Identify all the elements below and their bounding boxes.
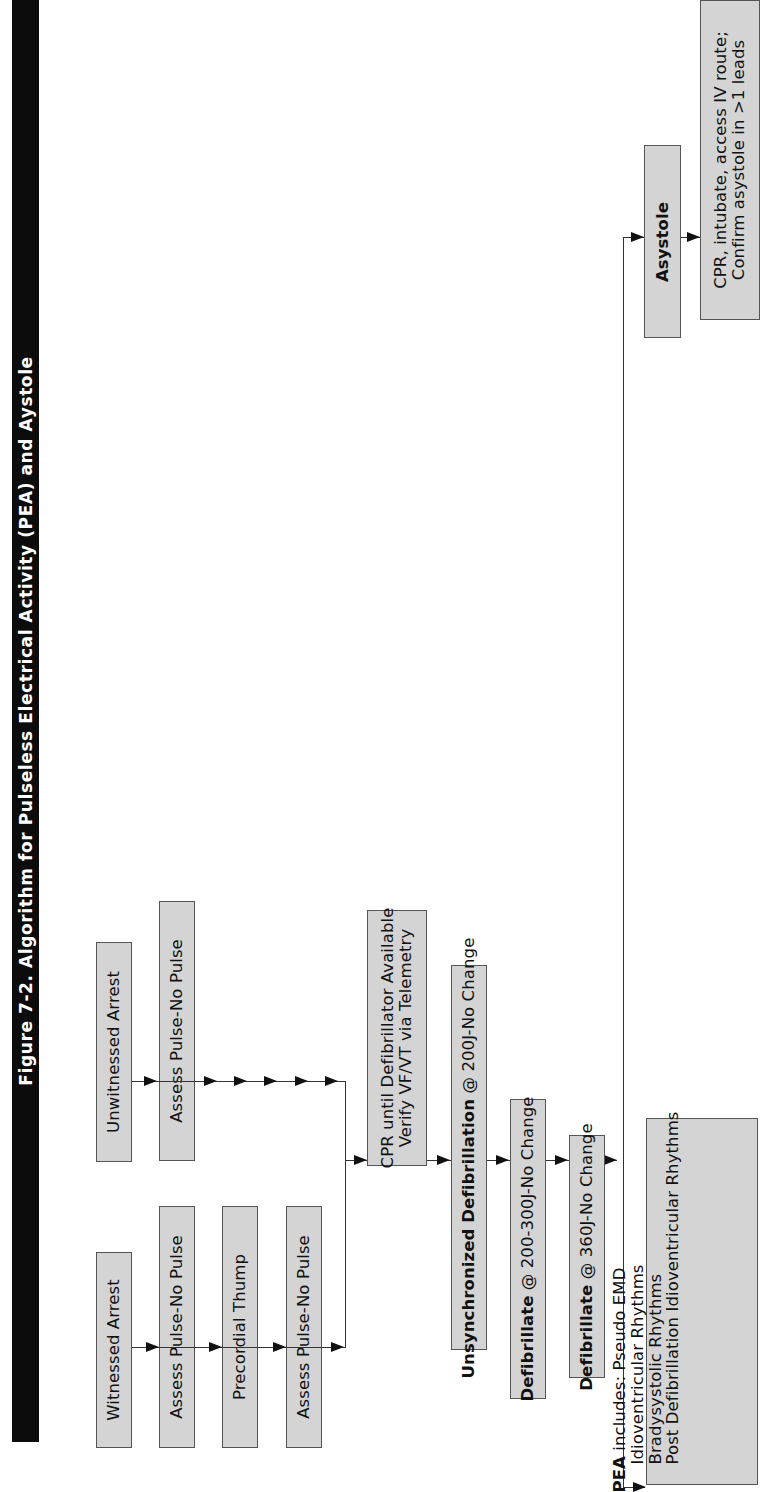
- cpr-verify-box: CPR until Defibrillator Available Verify…: [367, 910, 427, 1166]
- assess-pulse-label-2: Assess Pulse-No Pulse: [296, 1235, 313, 1419]
- defib-200-300-rest: @ 200-300J-No Change: [518, 1096, 537, 1295]
- arrow-right-icon: [264, 1076, 277, 1086]
- defib-360-box: Defibrillate @ 360J-No Change: [569, 1135, 605, 1378]
- defib-200-300-box: Defibrillate @ 200-300J-No Change: [510, 1099, 546, 1399]
- unsync-defib-text: Unsynchronized Defibrillation @ 200J-No …: [461, 937, 478, 1378]
- arrow-right-icon: [555, 1155, 568, 1165]
- arrow-right-icon: [146, 1342, 159, 1352]
- arrow-right-icon: [209, 1342, 222, 1352]
- arrow-right-icon: [273, 1342, 286, 1352]
- arrow-right-icon: [437, 1155, 450, 1165]
- cpr-verify-text: CPR until Defibrillator Available Verify…: [379, 908, 415, 1169]
- pea-bold: PEA: [610, 1456, 629, 1492]
- arrow-right-icon: [234, 1076, 247, 1086]
- pea-item-2: Bradysystolic Rhythms: [647, 1111, 665, 1492]
- unwitnessed-assess-pulse-label: Assess Pulse-No Pulse: [169, 939, 186, 1123]
- figure-title: Figure 7-2. Algorithm for Pulseless Elec…: [16, 356, 36, 1085]
- defib-360-bold: Defibrillate: [577, 1284, 596, 1390]
- defib-200-300-bold: Defibrillate: [518, 1296, 537, 1402]
- unwitnessed-arrest-label: Unwitnessed Arrest: [106, 971, 123, 1133]
- arrow-right-icon: [204, 1076, 217, 1086]
- verify-line: Verify VF/VT via Telemetry: [397, 908, 415, 1169]
- assess-pulse-box-2: Assess Pulse-No Pulse: [286, 1206, 322, 1448]
- asystole-box: Asystole: [644, 145, 681, 338]
- pea-box: PEA includes: Pseudo EMD Idioventricular…: [646, 1118, 758, 1485]
- unsync-defib-bold: Unsynchronized Defibrillation: [459, 1098, 478, 1378]
- arrow-right-icon: [631, 232, 644, 242]
- pea-item-3: Post Defibrillation Idioventricular Rhyt…: [665, 1111, 683, 1492]
- unwitnessed-assess-pulse-box: Assess Pulse-No Pulse: [159, 901, 195, 1161]
- defib-360-text: Defibrillate @ 360J-No Change: [579, 1123, 596, 1390]
- arrow-right-icon: [687, 232, 700, 242]
- asystole-action-line-2: Confirm asystole in >1 leads: [730, 31, 748, 289]
- merge-line: [345, 1081, 346, 1348]
- witnessed-arrest-box: Witnessed Arrest: [96, 1252, 132, 1448]
- asystole-action-box: CPR, intubate, access IV route; Confirm …: [700, 0, 760, 320]
- asystole-label: Asystole: [654, 201, 671, 281]
- connector-line: [132, 1347, 346, 1348]
- assess-pulse-label-1: Assess Pulse-No Pulse: [169, 1235, 186, 1419]
- asystole-action-text: CPR, intubate, access IV route; Confirm …: [712, 31, 748, 289]
- pea-text: PEA includes: Pseudo EMD Idioventricular…: [611, 1111, 682, 1492]
- defib-200-300-text: Defibrillate @ 200-300J-No Change: [520, 1096, 537, 1401]
- pea-line-1: PEA includes: Pseudo EMD: [611, 1111, 629, 1492]
- precordial-thump-label: Precordial Thump: [232, 1254, 249, 1400]
- unsync-defib-box: Unsynchronized Defibrillation @ 200J-No …: [451, 965, 487, 1350]
- precordial-thump-box: Precordial Thump: [222, 1206, 258, 1448]
- asystole-action-line-1: CPR, intubate, access IV route;: [712, 31, 730, 289]
- arrow-right-icon: [331, 1342, 344, 1352]
- arrow-right-icon: [325, 1076, 338, 1086]
- witnessed-arrest-label: Witnessed Arrest: [106, 1279, 123, 1421]
- unsync-defib-rest: @ 200J-No Change: [459, 937, 478, 1098]
- figure-title-bar: Figure 7-2. Algorithm for Pulseless Elec…: [12, 0, 39, 1442]
- arrow-right-icon: [144, 1076, 157, 1086]
- cpr-line: CPR until Defibrillator Available: [379, 908, 397, 1169]
- arrow-right-icon: [633, 1482, 646, 1492]
- defib-360-rest: @ 360J-No Change: [577, 1123, 596, 1284]
- arrow-right-icon: [496, 1155, 509, 1165]
- pea-item-1: Idioventricular Rhythms: [629, 1111, 647, 1492]
- arrow-right-icon: [354, 1155, 367, 1165]
- unwitnessed-arrest-box: Unwitnessed Arrest: [96, 942, 132, 1162]
- pea-intro: includes: Pseudo EMD: [610, 1267, 629, 1456]
- arrow-right-icon: [295, 1076, 308, 1086]
- assess-pulse-box-1: Assess Pulse-No Pulse: [159, 1206, 195, 1448]
